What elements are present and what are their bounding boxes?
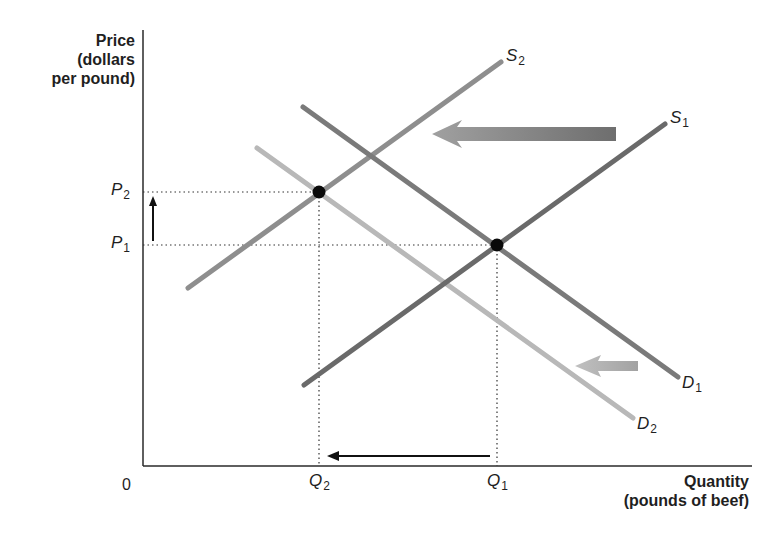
quantity-decrease-arrow [327, 451, 490, 461]
demand-shift-arrow [575, 355, 638, 377]
x-axis-title-line-1: Quantity [624, 472, 749, 491]
d2-label: D2 [637, 414, 657, 436]
supply-shift-arrow [432, 120, 616, 148]
supply-curve-s2 [188, 62, 501, 288]
origin-label: 0 [122, 476, 131, 494]
demand-curve-d1 [303, 107, 678, 377]
y-axis-title-line-1: Price [51, 31, 135, 50]
y-axis-title-line-2: (dollars [51, 50, 135, 69]
y-axis-title: Price (dollars per pound) [51, 31, 135, 88]
q1-label: Q1 [487, 471, 508, 493]
d1-label: D1 [682, 373, 702, 395]
guide-lines [143, 192, 497, 466]
s2-label: S2 [506, 46, 525, 68]
price-increase-arrow [149, 196, 157, 241]
supply-demand-diagram: Price (dollars per pound) Quantity (poun… [0, 0, 778, 536]
x-axis-title-line-2: (pounds of beef) [624, 491, 749, 510]
y-axis-title-line-3: per pound) [51, 69, 135, 88]
equilibrium-point-e2 [313, 186, 326, 199]
q2-label: Q2 [309, 471, 330, 493]
s1-label: S1 [670, 108, 689, 130]
x-axis-title: Quantity (pounds of beef) [624, 472, 749, 510]
equilibrium-point-e1 [491, 239, 504, 252]
p1-label: P1 [111, 233, 130, 255]
p2-label: P2 [111, 180, 130, 202]
